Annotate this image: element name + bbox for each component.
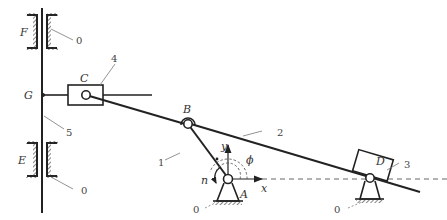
label-y: y [220, 140, 228, 153]
label-ground-e: 0 [81, 185, 87, 196]
label-ground-d: 0 [334, 204, 340, 215]
mechanism-diagram: F 0 C 4 G 5 E 0 B 1 2 y ϕ n A x 0 D 3 0 [0, 0, 447, 220]
support-a [213, 183, 243, 205]
leader-lines [44, 29, 399, 208]
joint-b [184, 120, 192, 128]
label-4: 4 [111, 53, 117, 64]
label-c: C [80, 72, 89, 85]
label-b: B [182, 103, 191, 116]
link-c-b [86, 95, 185, 124]
label-3: 3 [404, 159, 410, 170]
label-phi: ϕ [246, 154, 254, 167]
label-n: n [201, 174, 208, 187]
label-f: F [19, 26, 28, 39]
rotation-arrow-n [215, 167, 221, 183]
label-2: 2 [277, 127, 283, 138]
label-ground-a: 0 [193, 204, 199, 215]
label-5: 5 [66, 127, 72, 138]
label-a: A [239, 188, 248, 201]
label-1: 1 [158, 157, 164, 168]
label-ground-f: 0 [76, 35, 82, 46]
joint-a [224, 175, 233, 184]
label-e: E [17, 154, 26, 167]
label-g: G [24, 89, 33, 102]
label-x: x [261, 182, 268, 195]
label-d: D [375, 155, 385, 168]
